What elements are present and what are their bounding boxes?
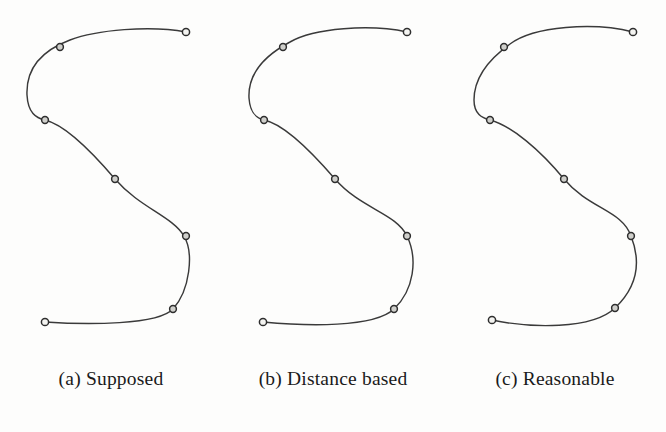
knot-group-distance-based bbox=[259, 28, 410, 325]
panel-distance-based: (b) Distance based bbox=[222, 0, 444, 432]
knot-point bbox=[561, 176, 568, 183]
knot-point bbox=[280, 44, 287, 51]
curve-plot-distance-based bbox=[222, 0, 444, 350]
knot-point bbox=[628, 233, 635, 240]
plot-area-reasonable bbox=[444, 0, 666, 350]
knot-group-supposed bbox=[41, 28, 189, 325]
knot-endpoint bbox=[629, 28, 636, 35]
knot-endpoint bbox=[41, 318, 48, 325]
knot-point bbox=[183, 233, 190, 240]
knot-point bbox=[391, 306, 398, 313]
supposed-curve bbox=[27, 29, 189, 324]
knot-point bbox=[261, 117, 268, 124]
curve-plot-supposed bbox=[0, 0, 222, 350]
distance-based-curve bbox=[249, 28, 413, 325]
plot-area-supposed bbox=[0, 0, 222, 350]
knot-point bbox=[57, 44, 64, 51]
knot-endpoint bbox=[259, 318, 266, 325]
caption-distance-based: (b) Distance based bbox=[222, 366, 444, 392]
curve-plot-reasonable bbox=[444, 0, 666, 350]
knot-group-reasonable bbox=[487, 28, 637, 323]
knot-point bbox=[170, 306, 177, 313]
knot-point bbox=[487, 117, 494, 124]
plot-area-distance-based bbox=[222, 0, 444, 350]
knot-endpoint bbox=[403, 28, 410, 35]
knot-point bbox=[112, 176, 119, 183]
knot-point bbox=[501, 44, 508, 51]
reasonable-curve bbox=[474, 27, 636, 326]
knot-endpoint bbox=[182, 28, 189, 35]
knot-point bbox=[612, 305, 619, 312]
knot-endpoint bbox=[488, 316, 495, 323]
caption-reasonable: (c) Reasonable bbox=[444, 366, 666, 392]
caption-supposed: (a) Supposed bbox=[0, 366, 222, 392]
knot-point bbox=[332, 176, 339, 183]
knot-point bbox=[42, 117, 49, 124]
knot-point bbox=[404, 233, 411, 240]
panel-reasonable: (c) Reasonable bbox=[444, 0, 666, 432]
figure-root: (a) Supposed (b) Distance based bbox=[0, 0, 666, 432]
panel-supposed: (a) Supposed bbox=[0, 0, 222, 432]
